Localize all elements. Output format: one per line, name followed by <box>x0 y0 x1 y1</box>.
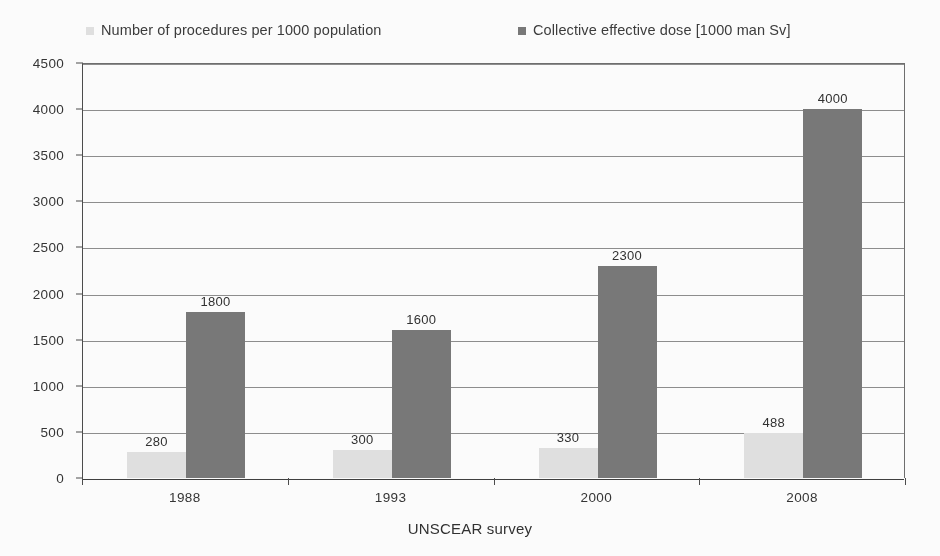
y-tick-label: 4500 <box>33 56 64 71</box>
bar-2000-series-2 <box>598 266 657 478</box>
legend-label-dose: Collective effective dose [1000 man Sv] <box>533 22 791 38</box>
y-axis: 050010001500200025003000350040004500 <box>0 63 76 478</box>
y-tick-label: 2000 <box>33 286 64 301</box>
x-tick-mark <box>699 478 700 485</box>
x-axis: 1988199320002008 <box>82 478 905 518</box>
bar-value-label: 4000 <box>818 91 848 106</box>
bars-layer: 2801800300160033023004884000 <box>83 64 904 478</box>
bar-value-label: 280 <box>145 434 168 449</box>
x-tick-mark <box>288 478 289 485</box>
x-axis-title: UNSCEAR survey <box>0 520 940 537</box>
x-tick-mark <box>494 478 495 485</box>
legend-label-procedures: Number of procedures per 1000 population <box>101 22 381 38</box>
legend-item-procedures: Number of procedures per 1000 population <box>86 22 381 38</box>
chart-legend: Number of procedures per 1000 population… <box>0 22 940 48</box>
y-tick-label: 4000 <box>33 102 64 117</box>
plot-area: 2801800300160033023004884000 <box>82 63 905 478</box>
x-tick-label-1988: 1988 <box>169 490 201 505</box>
legend-swatch-light-icon <box>86 27 94 35</box>
bar-value-label: 330 <box>557 430 580 445</box>
bar-2008-series-2 <box>803 109 862 478</box>
bar-2000-series-1 <box>539 448 598 478</box>
x-tick-mark <box>82 478 83 485</box>
bar-value-label: 2300 <box>612 248 642 263</box>
bar-value-label: 1600 <box>406 312 436 327</box>
y-tick-label: 1000 <box>33 378 64 393</box>
x-tick-mark <box>905 478 906 485</box>
bar-2008-series-1 <box>744 433 803 478</box>
bar-1993-series-1 <box>333 450 392 478</box>
x-tick-label-2008: 2008 <box>786 490 818 505</box>
bar-value-label: 1800 <box>200 294 230 309</box>
y-tick-label: 3500 <box>33 148 64 163</box>
bar-1993-series-2 <box>392 330 451 478</box>
x-tick-label-2000: 2000 <box>581 490 613 505</box>
bar-1988-series-2 <box>186 312 245 478</box>
legend-item-dose: Collective effective dose [1000 man Sv] <box>518 22 791 38</box>
y-tick-label: 500 <box>41 424 64 439</box>
y-tick-label: 2500 <box>33 240 64 255</box>
bar-1988-series-1 <box>127 452 186 478</box>
y-tick-label: 3000 <box>33 194 64 209</box>
y-tick-label: 1500 <box>33 332 64 347</box>
x-tick-label-1993: 1993 <box>375 490 407 505</box>
bar-value-label: 300 <box>351 432 374 447</box>
legend-swatch-dark-icon <box>518 27 526 35</box>
y-tick-label: 0 <box>56 471 64 486</box>
bar-value-label: 488 <box>762 415 785 430</box>
